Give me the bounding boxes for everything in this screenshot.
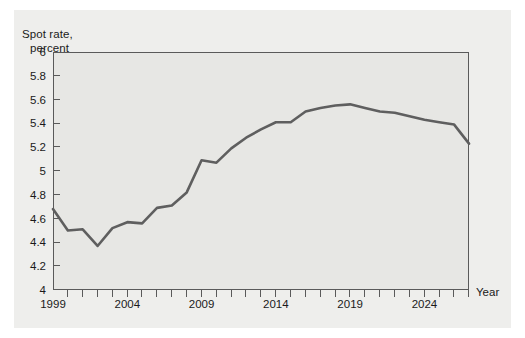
- plot-area: [53, 52, 469, 290]
- y-tick-label: 4.4: [0, 236, 46, 248]
- x-tick-mark: [171, 290, 172, 297]
- y-tick-mark: [53, 99, 60, 100]
- y-tick-mark: [53, 218, 60, 219]
- y-tick-label: 5.8: [0, 70, 46, 82]
- y-tick-mark: [53, 146, 60, 147]
- y-tick-label: 5.4: [0, 117, 46, 129]
- x-tick-label: 2004: [114, 298, 140, 310]
- x-tick-mark: [453, 290, 454, 297]
- x-tick-mark: [305, 290, 306, 297]
- x-tick-mark: [364, 290, 365, 297]
- x-tick-mark: [141, 290, 142, 297]
- x-tick-label: 2009: [189, 298, 215, 310]
- x-tick-mark: [379, 290, 380, 297]
- x-tick-mark: [290, 290, 291, 297]
- x-tick-mark: [245, 290, 246, 297]
- y-tick-label: 5.6: [0, 94, 46, 106]
- x-tick-label: 1999: [40, 298, 66, 310]
- y-tick-mark: [53, 170, 60, 171]
- x-tick-mark: [349, 290, 350, 297]
- x-tick-mark: [439, 290, 440, 297]
- y-tick-mark: [53, 75, 60, 76]
- x-tick-mark: [216, 290, 217, 297]
- x-tick-mark: [156, 290, 157, 297]
- x-tick-mark: [320, 290, 321, 297]
- x-tick-label: 2014: [263, 298, 289, 310]
- y-tick-mark: [53, 123, 60, 124]
- y-tick-label: 4.8: [0, 189, 46, 201]
- chart-figure: Spot rate, percent 44.24.44.64.855.25.45…: [0, 0, 525, 338]
- x-tick-mark: [186, 290, 187, 297]
- x-tick-label: 2019: [337, 298, 363, 310]
- x-tick-mark: [275, 290, 276, 297]
- y-tick-label: 4.2: [0, 260, 46, 272]
- y-tick-mark: [53, 194, 60, 195]
- y-tick-label: 4: [0, 284, 46, 296]
- x-axis-title: Year: [476, 286, 499, 298]
- x-tick-mark: [67, 290, 68, 297]
- x-tick-mark: [468, 290, 469, 297]
- y-axis-title-line1: Spot rate,: [22, 28, 73, 40]
- y-tick-label: 6: [0, 46, 46, 58]
- x-tick-mark: [335, 290, 336, 297]
- x-tick-label: 2024: [412, 298, 438, 310]
- y-tick-label: 4.6: [0, 213, 46, 225]
- x-tick-mark: [394, 290, 395, 297]
- x-tick-mark: [424, 290, 425, 297]
- x-tick-mark: [231, 290, 232, 297]
- x-tick-mark: [97, 290, 98, 297]
- x-tick-mark: [260, 290, 261, 297]
- y-tick-label: 5.2: [0, 141, 46, 153]
- x-tick-mark: [112, 290, 113, 297]
- x-tick-mark: [201, 290, 202, 297]
- y-tick-label: 5: [0, 165, 46, 177]
- y-tick-mark: [53, 242, 60, 243]
- x-tick-mark: [409, 290, 410, 297]
- y-tick-mark: [53, 265, 60, 266]
- x-tick-mark: [82, 290, 83, 297]
- x-tick-mark: [127, 290, 128, 297]
